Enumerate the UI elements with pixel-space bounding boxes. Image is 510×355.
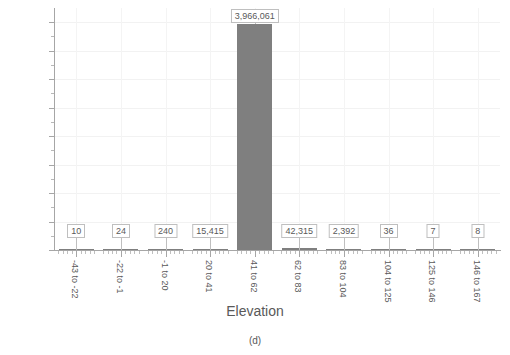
x-axis-tick [121, 251, 122, 257]
x-axis-minor-tick [58, 251, 59, 254]
bar-data-label: 36 [379, 224, 397, 238]
x-axis-tick-label: 41 to 62 [249, 260, 259, 293]
x-axis-minor-tick [268, 251, 269, 254]
x-axis-tick-label: 62 to 83 [293, 260, 303, 293]
x-axis-minor-tick [94, 251, 95, 254]
bar-data-label: 3,966,061 [231, 9, 279, 23]
y-axis-tick [49, 250, 54, 251]
x-axis-minor-tick [348, 251, 349, 254]
x-axis-minor-tick [442, 251, 443, 254]
x-axis-tick-label: -22 to -1 [115, 260, 125, 294]
y-axis-tick [49, 222, 54, 223]
x-axis-minor-tick [375, 251, 376, 254]
y-axis-minor-tick [51, 236, 54, 237]
data-label-leader-line [344, 237, 345, 250]
y-axis-line [54, 8, 55, 251]
x-axis-minor-tick [148, 251, 149, 254]
x-axis-minor-tick [259, 251, 260, 254]
x-axis-minor-tick [313, 251, 314, 254]
y-axis-minor-tick [51, 179, 54, 180]
x-axis-minor-tick [108, 251, 109, 254]
x-axis-minor-tick [215, 251, 216, 254]
gridline-vertical [299, 8, 300, 250]
x-axis-minor-tick [241, 251, 242, 254]
data-label-leader-line [478, 237, 479, 250]
x-axis-minor-tick [250, 251, 251, 254]
x-axis-tick-label: 104 to 125 [383, 260, 393, 303]
gridline-vertical [166, 8, 167, 250]
x-axis-minor-tick [67, 251, 68, 254]
x-axis-minor-tick [237, 251, 238, 254]
data-label-leader-line [166, 237, 167, 250]
x-axis-minor-tick [362, 251, 363, 254]
x-axis-minor-tick [482, 251, 483, 254]
gridline-vertical [433, 8, 434, 250]
x-axis-minor-tick [473, 251, 474, 254]
x-axis-minor-tick [402, 251, 403, 254]
x-axis-tick-label: -1 to 20 [160, 260, 170, 291]
x-axis-minor-tick [183, 251, 184, 254]
x-axis-minor-tick [460, 251, 461, 254]
x-axis-minor-tick [219, 251, 220, 254]
x-axis-minor-tick [446, 251, 447, 254]
x-axis-tick [76, 251, 77, 257]
y-axis-tick [49, 193, 54, 194]
data-label-leader-line [299, 237, 300, 250]
data-label-leader-line [389, 237, 390, 250]
bar-data-label: 240 [154, 224, 177, 238]
x-axis-minor-tick [103, 251, 104, 254]
y-axis-minor-tick [51, 65, 54, 66]
data-label-leader-line [121, 237, 122, 250]
gridline-vertical [210, 8, 211, 250]
x-axis-tick-label: 125 to 146 [427, 260, 437, 303]
x-axis-minor-tick [125, 251, 126, 254]
x-axis-minor-tick [295, 251, 296, 254]
x-axis-minor-tick [130, 251, 131, 254]
y-axis-tick [49, 136, 54, 137]
x-axis-minor-tick [281, 251, 282, 254]
x-axis-tick [433, 251, 434, 257]
x-axis-minor-tick [451, 251, 452, 254]
x-axis-tick [478, 251, 479, 257]
x-axis-minor-tick [72, 251, 73, 254]
x-axis-tick [166, 251, 167, 257]
data-label-leader-line [255, 22, 256, 24]
gridline-vertical [478, 8, 479, 250]
bar-data-label: 2,392 [329, 224, 360, 238]
x-axis-minor-tick [152, 251, 153, 254]
x-axis-minor-tick [317, 251, 318, 254]
x-axis-minor-tick [85, 251, 86, 254]
x-axis-minor-tick [197, 251, 198, 254]
x-axis-title: Elevation [0, 303, 510, 319]
data-label-leader-line [433, 237, 434, 250]
x-axis-minor-tick [304, 251, 305, 254]
x-axis-minor-tick [273, 251, 274, 254]
x-axis-minor-tick [429, 251, 430, 254]
x-axis-minor-tick [393, 251, 394, 254]
gridline-vertical [76, 8, 77, 250]
x-axis-tick-label: 146 to 167 [472, 260, 482, 303]
x-axis-tick [389, 251, 390, 257]
x-axis-minor-tick [192, 251, 193, 254]
x-axis-minor-tick [384, 251, 385, 254]
x-axis-minor-tick [134, 251, 135, 254]
x-axis-minor-tick [424, 251, 425, 254]
y-axis-minor-tick [51, 207, 54, 208]
x-axis-minor-tick [496, 251, 497, 254]
x-axis-minor-tick [406, 251, 407, 254]
x-axis-minor-tick [290, 251, 291, 254]
bar-data-label: 10 [67, 224, 85, 238]
x-axis-minor-tick [161, 251, 162, 254]
x-axis-minor-tick [174, 251, 175, 254]
x-axis-minor-tick [371, 251, 372, 254]
x-axis-minor-tick [469, 251, 470, 254]
x-axis-tick [210, 251, 211, 257]
plot-area [54, 8, 500, 250]
bar[interactable] [237, 24, 272, 250]
data-label-leader-line [76, 237, 77, 250]
x-axis-tick [299, 251, 300, 257]
x-axis-minor-tick [438, 251, 439, 254]
x-axis-tick-label: 83 to 104 [338, 260, 348, 298]
x-axis-minor-tick [90, 251, 91, 254]
x-axis-minor-tick [139, 251, 140, 254]
